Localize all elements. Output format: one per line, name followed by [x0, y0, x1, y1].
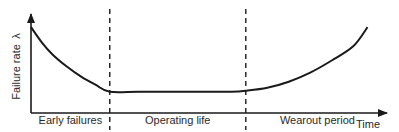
region-label-3: Wearout period — [280, 114, 355, 126]
bathtub-chart: Early failuresOperating lifeWearout peri… — [0, 0, 399, 132]
lambda-symbol: λ — [10, 33, 22, 39]
x-axis-label: Time — [356, 118, 380, 130]
failure-rate-curve — [31, 27, 368, 92]
y-axis-label: Failure rate — [10, 44, 22, 100]
region-label-2: Operating life — [145, 114, 210, 126]
region-label-1: Early failures — [39, 114, 103, 126]
